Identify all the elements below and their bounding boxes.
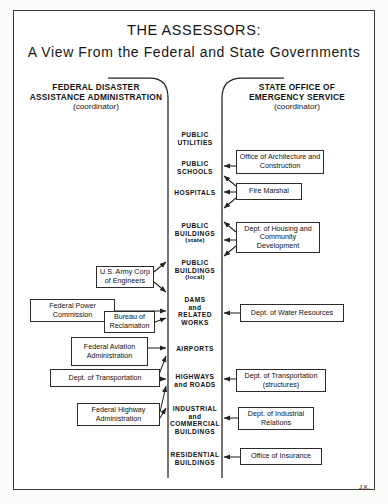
cat-line-3: COMMERCIAL xyxy=(166,420,224,428)
cat-line-1: INDUSTRIAL xyxy=(166,405,224,413)
cat-line-1: RESIDENTIAL xyxy=(166,451,224,459)
cat-line-2: and xyxy=(168,304,222,312)
category-airports: AIRPORTS xyxy=(168,345,222,353)
federal-line-2: ASSISTANCE ADMINISTRATION xyxy=(8,92,184,102)
cat-line-1: PUBLIC xyxy=(168,222,222,230)
cat-line-1: AIRPORTS xyxy=(168,345,222,353)
category-dams-related-works: DAMS and RELATED WORKS xyxy=(168,296,222,326)
category-public-utilities: PUBLIC UTILITIES xyxy=(168,131,222,146)
cat-line-1: HOSPITALS xyxy=(168,189,222,197)
agency-box-dept-of-water-resources[interactable]: Dept. of Water Resources xyxy=(240,304,344,322)
cat-line-2: UTILITIES xyxy=(168,139,222,147)
agency-box-us-army-corp-of-engineers[interactable]: U.S. Army Corp of Engineers xyxy=(96,266,154,288)
state-line-2: EMERGENCY SERVICE xyxy=(222,92,372,102)
cat-line-1: DAMS xyxy=(168,296,222,304)
agency-box-bureau-of-reclamation[interactable]: Bureau of Reclamation xyxy=(104,311,155,333)
cat-sub: BUILDINGS xyxy=(166,428,224,436)
category-hospitals: HOSPITALS xyxy=(168,189,222,197)
agency-box-federal-power-commission[interactable]: Federal Power Commission xyxy=(30,299,115,322)
agency-box-federal-aviation-administration[interactable]: Federal Aviation Administration xyxy=(71,337,148,366)
cat-sub: WORKS xyxy=(168,319,222,327)
federal-line-1: FEDERAL DISASTER xyxy=(8,82,184,92)
column-header-state: STATE OFFICE OF EMERGENCY SERVICE (coord… xyxy=(222,82,372,112)
cat-line-3: RELATED xyxy=(168,311,222,319)
column-header-federal: FEDERAL DISASTER ASSISTANCE ADMINISTRATI… xyxy=(8,82,184,112)
federal-role: (coordinator) xyxy=(8,102,184,112)
agency-box-fire-marshal[interactable]: Fire Marshal xyxy=(236,183,302,200)
agency-box-federal-highway-administration[interactable]: Federal Highway Administration xyxy=(77,403,160,426)
page-title: THE ASSESSORS: xyxy=(0,22,388,38)
cat-line-2: SCHOOLS xyxy=(168,168,222,176)
agency-box-dept-of-industrial-relations[interactable]: Dept. of Industrial Relations xyxy=(238,407,314,430)
cat-line-2: and ROADS xyxy=(166,381,224,389)
category-residential-buildings: RESIDENTIAL BUILDINGS xyxy=(166,451,224,466)
state-role: (coordinator) xyxy=(222,102,372,112)
agency-box-office-of-insurance[interactable]: Office of Insurance xyxy=(240,448,322,465)
agency-box-office-of-architecture-and-construction[interactable]: Office of Architecture and Construction xyxy=(236,150,324,174)
agency-box-dept-of-transportation[interactable]: Dept. of Transportation xyxy=(50,369,160,387)
cat-line-1: PUBLIC xyxy=(168,131,222,139)
page-subtitle: A View From the Federal and State Govern… xyxy=(0,44,388,60)
agency-box-dept-of-transportation-structures[interactable]: Dept. of Transportation (structures) xyxy=(236,369,326,392)
category-highways-roads: HIGHWAYS and ROADS xyxy=(166,373,224,388)
agency-box-dept-of-housing-and-community-development[interactable]: Dept. of Housing and Community Developme… xyxy=(236,222,320,253)
category-public-schools: PUBLIC SCHOOLS xyxy=(168,160,222,175)
category-public-buildings-state: PUBLIC BUILDINGS (state) xyxy=(168,222,222,244)
cat-line-2: BUILDINGS xyxy=(166,459,224,467)
cat-line-1: PUBLIC xyxy=(168,259,222,267)
state-line-1: STATE OFFICE OF xyxy=(222,82,372,92)
cat-sub: (local) xyxy=(168,274,222,281)
cat-line-1: HIGHWAYS xyxy=(166,373,224,381)
cat-line-2: and xyxy=(166,413,224,421)
cat-line-1: PUBLIC xyxy=(168,160,222,168)
category-public-buildings-local: PUBLIC BUILDINGS (local) xyxy=(168,259,222,281)
cat-sub: (state) xyxy=(168,237,222,244)
artist-signature: J.K. xyxy=(359,484,370,490)
category-industrial-commercial-buildings: INDUSTRIAL and COMMERCIAL BUILDINGS xyxy=(166,405,224,435)
